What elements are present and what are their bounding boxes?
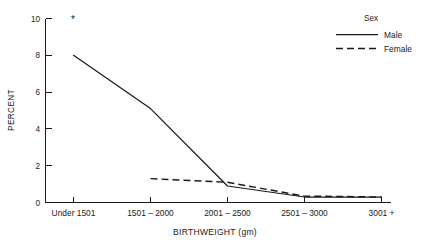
x-tick-label-2001-2500: 2001 – 2500 <box>204 208 251 218</box>
plot-series <box>74 55 382 197</box>
annotation-group: * <box>71 14 75 25</box>
series-line-male <box>74 55 382 197</box>
y-tick-label-0: 0 <box>35 199 40 208</box>
x-axis: Under 1501 1501 – 2000 2001 – 2500 2501 … <box>46 197 395 238</box>
y-tick-label-2: 2 <box>35 162 40 171</box>
legend-title: Sex <box>364 14 378 23</box>
y-axis: 10 8 6 4 2 0 PERCENT <box>6 15 52 208</box>
x-tick-label-3001-plus: 3001 + <box>369 208 395 218</box>
chart-figure: 10 8 6 4 2 0 PERCENT Under 1501 1501 – 2… <box>0 0 427 251</box>
legend-label-female: Female <box>384 44 412 54</box>
y-tick-label-8: 8 <box>35 51 40 60</box>
series-line-female <box>151 179 382 197</box>
y-tick-label-4: 4 <box>35 125 40 134</box>
y-tick-label-10: 10 <box>31 15 41 24</box>
x-tick-label-under-1501: Under 1501 <box>52 208 96 218</box>
x-axis-title: BIRTHWEIGHT (gm) <box>173 227 257 237</box>
legend-label-male: Male <box>384 30 402 40</box>
x-tick-label-2501-3000: 2501 – 3000 <box>281 208 328 218</box>
chart-canvas: 10 8 6 4 2 0 PERCENT Under 1501 1501 – 2… <box>0 0 427 251</box>
y-axis-title: PERCENT <box>6 89 16 131</box>
x-tick-label-1501-2000: 1501 – 2000 <box>127 208 174 218</box>
asterisk-icon: * <box>71 14 75 25</box>
legend: Sex Male Female <box>336 14 412 54</box>
y-tick-label-6: 6 <box>35 88 40 97</box>
